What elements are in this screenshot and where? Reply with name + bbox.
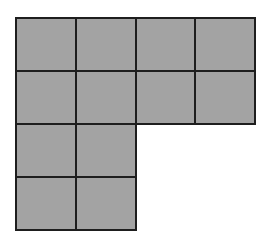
grid-square [15, 70, 77, 125]
grid-square [75, 70, 137, 125]
grid-square [194, 17, 256, 72]
grid-square [15, 17, 77, 72]
grid-square [135, 17, 197, 72]
grid-square [15, 176, 77, 231]
grid-square [15, 123, 77, 178]
grid-square [135, 70, 197, 125]
grid-square [194, 70, 256, 125]
l-shaped-square-grid [0, 0, 263, 240]
grid-square [75, 17, 137, 72]
grid-square [75, 123, 137, 178]
grid-square [75, 176, 137, 231]
